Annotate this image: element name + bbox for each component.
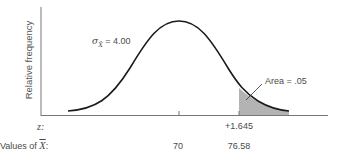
x-tick-label-mean: 70 <box>173 142 183 151</box>
x-tick-label-critical: 76.58 <box>228 142 251 151</box>
sigma-annotation: σX̄ = 4.00 <box>92 37 131 46</box>
area-annotation: Area = .05 <box>265 77 307 86</box>
x-axis-label: Values of X: <box>0 141 48 152</box>
z-tick-label: +1.645 <box>225 122 253 131</box>
normal-curve <box>68 21 289 111</box>
z-axis-label: z: <box>37 122 44 132</box>
y-axis-label: Relative frequency <box>23 21 34 100</box>
